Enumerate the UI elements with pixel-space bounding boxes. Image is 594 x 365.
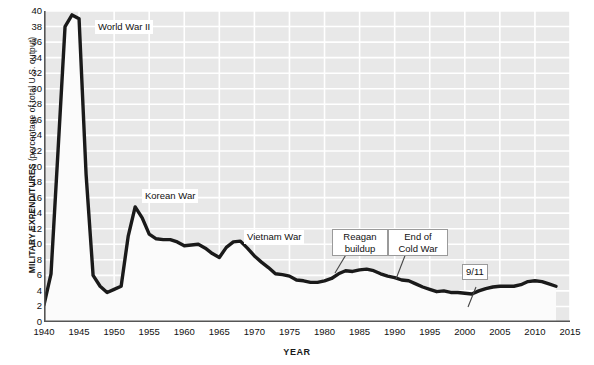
x-tick-2015: 2015 <box>550 327 590 337</box>
x-tick-1970: 1970 <box>234 327 274 337</box>
chart-canvas <box>44 11 570 322</box>
y-tick-20: 20 <box>20 162 42 172</box>
y-tick-12: 12 <box>20 224 42 234</box>
y-tick-38: 38 <box>20 22 42 32</box>
annotation-world-war-ii: World War II <box>95 20 153 34</box>
y-tick-2: 2 <box>20 301 42 311</box>
y-tick-18: 18 <box>20 177 42 187</box>
x-tick-1950: 1950 <box>94 327 134 337</box>
annotation-reagan-line2: buildup <box>336 243 384 255</box>
y-tick-24: 24 <box>20 130 42 140</box>
y-tick-22: 22 <box>20 146 42 156</box>
annotation-coldwar-line2: Cold War <box>392 243 444 255</box>
y-tick-34: 34 <box>20 53 42 63</box>
y-tick-28: 28 <box>20 99 42 109</box>
x-tick-1945: 1945 <box>59 327 99 337</box>
annotation-nine-eleven: 9/11 <box>462 264 488 280</box>
y-tick-4: 4 <box>20 286 42 296</box>
x-tick-1980: 1980 <box>305 327 345 337</box>
y-tick-40: 40 <box>20 6 42 16</box>
x-tick-1955: 1955 <box>129 327 169 337</box>
annotation-coldwar-line1: End of <box>392 231 444 243</box>
y-tick-26: 26 <box>20 115 42 125</box>
y-axis-tick-labels: 0246810121416182022242628303234363840 <box>18 0 42 365</box>
annotation-korean-war: Korean War <box>142 189 198 203</box>
x-tick-1960: 1960 <box>164 327 204 337</box>
chart-figure: MILITARY EXPENDITURES (percentage of tot… <box>0 0 594 365</box>
annotation-vietnam-war: Vietnam War <box>244 230 304 244</box>
y-tick-8: 8 <box>20 255 42 265</box>
x-tick-2005: 2005 <box>480 327 520 337</box>
y-tick-32: 32 <box>20 68 42 78</box>
y-tick-36: 36 <box>20 37 42 47</box>
y-tick-30: 30 <box>20 84 42 94</box>
y-tick-16: 16 <box>20 193 42 203</box>
x-tick-2010: 2010 <box>515 327 555 337</box>
y-tick-6: 6 <box>20 270 42 280</box>
x-tick-1975: 1975 <box>269 327 309 337</box>
y-tick-10: 10 <box>20 239 42 249</box>
annotation-reagan-buildup: Reagan buildup <box>332 229 388 256</box>
y-tick-14: 14 <box>20 208 42 218</box>
x-tick-1985: 1985 <box>340 327 380 337</box>
x-tick-1940: 1940 <box>24 327 64 337</box>
x-tick-1995: 1995 <box>410 327 450 337</box>
x-axis-title: YEAR <box>0 347 594 357</box>
x-tick-2000: 2000 <box>445 327 485 337</box>
x-tick-1965: 1965 <box>199 327 239 337</box>
annotation-reagan-line1: Reagan <box>336 231 384 243</box>
annotation-end-of-cold-war: End of Cold War <box>388 229 448 256</box>
x-tick-1990: 1990 <box>375 327 415 337</box>
plot-area: World War II Korean War Vietnam War Reag… <box>44 11 570 322</box>
x-axis-tick-labels: 1940194519501955196019651970197519801985… <box>0 327 594 341</box>
